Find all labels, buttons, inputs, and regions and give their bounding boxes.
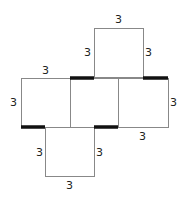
square-bottom bbox=[46, 128, 95, 177]
label-top-left: 3 bbox=[84, 46, 91, 59]
square-left bbox=[22, 79, 71, 128]
label-right-right: 3 bbox=[170, 96, 177, 109]
label-right-bottom: 3 bbox=[139, 130, 146, 143]
square-top bbox=[95, 29, 144, 78]
label-bottom-right: 3 bbox=[96, 146, 103, 159]
label-left-left: 3 bbox=[10, 96, 17, 109]
label-top-top: 3 bbox=[115, 13, 122, 26]
cube-net-diagram: 3 3 3 3 3 3 3 3 3 3 bbox=[0, 0, 181, 200]
label-top-right: 3 bbox=[145, 46, 152, 59]
square-right bbox=[119, 79, 169, 128]
label-bottom-left: 3 bbox=[36, 146, 43, 159]
label-left-top: 3 bbox=[42, 64, 49, 77]
label-bottom-bottom: 3 bbox=[66, 179, 73, 192]
square-middle bbox=[71, 79, 119, 128]
thick-edges bbox=[21, 78, 168, 127]
